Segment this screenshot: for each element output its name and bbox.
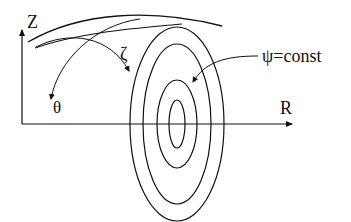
torus-outer-arc [28,15,222,42]
r-axis-label: R [280,98,292,118]
z-axis-label: Z [27,12,38,32]
psi-const-label: ψ=const [262,46,321,66]
flux-coordinate-diagram: Z R ζ θ ψ=const [0,0,351,222]
theta-label: θ [53,98,61,117]
torus-inner-arc [35,24,182,48]
zeta-label: ζ [120,44,128,64]
psi-pointer-arrow [193,56,258,82]
